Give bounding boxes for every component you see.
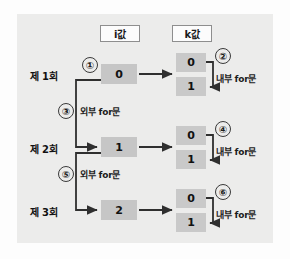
k-value-cell-row2-0: 0: [176, 126, 206, 145]
k-value-cell-row1-0: 0: [176, 53, 206, 72]
outer-loop-caption-2: 외부 for문: [80, 168, 120, 181]
column-header-k: k값: [172, 25, 212, 42]
outer-loop-caption-1: 외부 for문: [80, 105, 120, 118]
i-value-cell-row1: 0: [101, 64, 137, 84]
k-value-cell-row3-1: 1: [176, 213, 206, 232]
row-label-3: 제 3회: [30, 204, 57, 219]
k-value-cell-row2-1: 1: [176, 150, 206, 169]
column-header-i: i값: [100, 25, 140, 42]
inner-loop-caption-1: 내부 for문: [216, 72, 256, 85]
inner-loop-caption-3: 내부 for문: [216, 208, 256, 221]
step-marker-6: ⑥: [215, 184, 231, 200]
k-value-cell-row1-1: 1: [176, 77, 206, 96]
k-value-cell-row3-0: 0: [176, 189, 206, 208]
row-label-1: 제 1회: [30, 68, 57, 83]
inner-loop-caption-2: 내부 for문: [216, 145, 256, 158]
step-marker-5: ⑤: [58, 166, 74, 182]
row-label-2: 제 2회: [30, 141, 57, 156]
i-value-cell-row3: 2: [101, 200, 137, 220]
step-marker-3: ③: [58, 103, 74, 119]
diagram-screenshot: i값 k값 제 1회 제 2회 제 3회 0 1 2 0 1 0 1 0 1 ①…: [0, 0, 290, 259]
step-marker-2: ②: [215, 48, 231, 64]
step-marker-1: ①: [82, 57, 98, 73]
step-marker-4: ④: [215, 121, 231, 137]
i-value-cell-row2: 1: [101, 137, 137, 157]
